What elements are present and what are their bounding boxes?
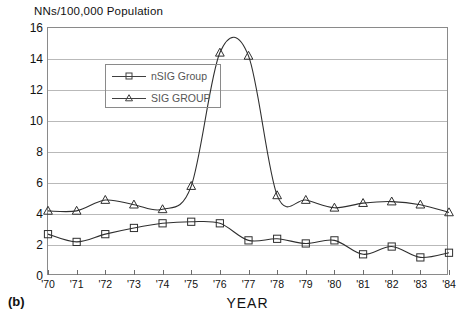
x-axis-tick-label: '78 bbox=[270, 278, 284, 290]
x-axis-title: YEAR bbox=[47, 295, 448, 311]
x-axis-tick-label: '82 bbox=[385, 278, 399, 290]
x-axis-tick-label: '70 bbox=[41, 278, 55, 290]
data-point-square-marker bbox=[302, 240, 309, 247]
data-point-square-marker bbox=[445, 249, 452, 256]
data-point-square-marker bbox=[159, 220, 166, 227]
x-axis-tick-label: '81 bbox=[356, 278, 370, 290]
data-point-square-marker bbox=[359, 251, 366, 258]
data-point-square-marker bbox=[245, 237, 252, 244]
x-axis-tick-label: '80 bbox=[328, 278, 342, 290]
y-axis-tick-label: 4 bbox=[36, 207, 43, 221]
x-axis-tick-label: '79 bbox=[299, 278, 313, 290]
data-point-square-marker bbox=[417, 254, 424, 261]
data-point-square-marker bbox=[331, 237, 338, 244]
series-nsig bbox=[44, 218, 452, 261]
data-point-triangle-marker bbox=[301, 195, 310, 203]
x-axis-tick-label: '74 bbox=[156, 278, 170, 290]
data-point-square-marker bbox=[102, 231, 109, 238]
chart-figure: NNs/100,000 Population 0246810121416 '70… bbox=[0, 0, 463, 324]
x-axis-tick-mark bbox=[449, 270, 450, 275]
data-point-triangle-marker bbox=[187, 182, 196, 190]
plot-area: 0246810121416 '70'71'72'73'74'75'76'77'7… bbox=[47, 27, 448, 275]
data-point-triangle-marker bbox=[244, 51, 253, 59]
data-point-square-marker bbox=[388, 243, 395, 250]
y-axis-tick-label: 6 bbox=[36, 176, 43, 190]
x-axis-tick-label: '84 bbox=[442, 278, 456, 290]
data-point-square-marker bbox=[130, 224, 137, 231]
data-point-triangle-marker bbox=[215, 48, 224, 56]
legend-entry-sig: SIG GROUP bbox=[106, 87, 220, 109]
y-axis-tick-label: 12 bbox=[30, 83, 43, 97]
legend-label-sig: SIG GROUP bbox=[151, 92, 211, 104]
data-point-square-marker bbox=[73, 238, 80, 245]
x-axis-tick-label: '71 bbox=[70, 278, 84, 290]
x-axis-tick-label: '72 bbox=[98, 278, 112, 290]
y-axis-tick-label: 16 bbox=[30, 21, 43, 35]
data-point-triangle-marker bbox=[44, 206, 53, 214]
y-axis-tick-label: 14 bbox=[30, 52, 43, 66]
legend-entry-nsig: nSIG Group bbox=[106, 65, 220, 87]
chart-legend: nSIG Group SIG GROUP bbox=[105, 64, 221, 108]
x-axis-tick-label: '76 bbox=[213, 278, 227, 290]
data-point-square-marker bbox=[216, 220, 223, 227]
data-point-triangle-marker bbox=[273, 191, 282, 199]
y-axis-tick-label: 8 bbox=[36, 145, 43, 159]
x-axis-tick-label: '75 bbox=[184, 278, 198, 290]
y-axis-title: NNs/100,000 Population bbox=[34, 5, 163, 17]
y-axis-tick-label: 2 bbox=[36, 238, 43, 252]
data-point-square-marker bbox=[274, 235, 281, 242]
data-point-triangle-marker bbox=[387, 197, 396, 205]
x-axis-tick-label: '77 bbox=[242, 278, 256, 290]
data-point-square-marker bbox=[188, 218, 195, 225]
panel-label: (b) bbox=[8, 294, 25, 309]
y-axis-tick-label: 10 bbox=[30, 114, 43, 128]
square-marker-icon bbox=[112, 69, 146, 83]
x-axis-tick-label: '83 bbox=[414, 278, 428, 290]
triangle-marker-icon bbox=[112, 91, 146, 105]
legend-label-nsig: nSIG Group bbox=[151, 70, 207, 82]
data-point-square-marker bbox=[44, 231, 51, 238]
x-axis-tick-label: '73 bbox=[127, 278, 141, 290]
